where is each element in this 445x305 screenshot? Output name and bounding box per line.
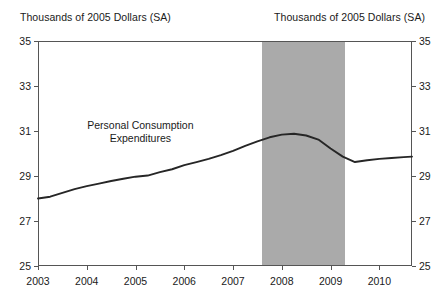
y-tick-label-left-27: 27 xyxy=(19,216,31,227)
y-tick-label-left-29: 29 xyxy=(19,171,31,182)
x-tick-mark-2003 xyxy=(38,266,39,270)
y-tick-label-left-35: 35 xyxy=(19,36,31,47)
x-tick-label-2010: 2010 xyxy=(368,276,391,287)
y-tick-mark-left-33 xyxy=(34,86,38,87)
y-tick-mark-left-27 xyxy=(34,221,38,222)
x-tick-label-2008: 2008 xyxy=(270,276,293,287)
x-tick-mark-2004 xyxy=(87,266,88,270)
y-tick-mark-right-25 xyxy=(412,266,416,267)
series-annotation: Personal Consumption Expenditures xyxy=(87,119,193,146)
y-tick-mark-right-29 xyxy=(412,176,416,177)
x-tick-label-2004: 2004 xyxy=(75,276,98,287)
x-tick-label-2009: 2009 xyxy=(319,276,342,287)
y-tick-mark-right-35 xyxy=(412,41,416,42)
left-axis-unit-label: Thousands of 2005 Dollars (SA) xyxy=(20,11,171,23)
y-tick-label-right-25: 25 xyxy=(419,261,431,272)
y-tick-mark-right-31 xyxy=(412,131,416,132)
x-tick-label-2006: 2006 xyxy=(173,276,196,287)
y-tick-label-right-27: 27 xyxy=(419,216,431,227)
x-tick-mark-2005 xyxy=(136,266,137,270)
y-tick-mark-left-35 xyxy=(34,41,38,42)
x-tick-mark-2009 xyxy=(331,266,332,270)
right-axis-unit-label: Thousands of 2005 Dollars (SA) xyxy=(274,11,425,23)
x-tick-mark-2008 xyxy=(282,266,283,270)
y-tick-label-right-31: 31 xyxy=(419,126,431,137)
y-tick-label-left-31: 31 xyxy=(19,126,31,137)
y-tick-label-right-35: 35 xyxy=(419,36,431,47)
x-tick-label-2005: 2005 xyxy=(124,276,147,287)
series-annotation-line-2: Expenditures xyxy=(87,132,193,145)
y-tick-label-left-33: 33 xyxy=(19,81,31,92)
series-line-layer xyxy=(38,41,412,266)
y-tick-mark-right-27 xyxy=(412,221,416,222)
plot-area xyxy=(38,41,412,266)
y-tick-label-right-33: 33 xyxy=(419,81,431,92)
x-tick-label-2007: 2007 xyxy=(221,276,244,287)
y-tick-mark-left-31 xyxy=(34,131,38,132)
chart-figure: Thousands of 2005 Dollars (SA) Thousands… xyxy=(0,0,445,305)
y-tick-label-right-29: 29 xyxy=(419,171,431,182)
x-tick-mark-2010 xyxy=(379,266,380,270)
x-tick-label-2003: 2003 xyxy=(26,276,49,287)
series-annotation-line-1: Personal Consumption xyxy=(87,119,193,132)
y-tick-label-left-25: 25 xyxy=(19,261,31,272)
y-tick-mark-left-29 xyxy=(34,176,38,177)
x-tick-mark-2007 xyxy=(233,266,234,270)
y-tick-mark-right-33 xyxy=(412,86,416,87)
x-tick-mark-2006 xyxy=(184,266,185,270)
